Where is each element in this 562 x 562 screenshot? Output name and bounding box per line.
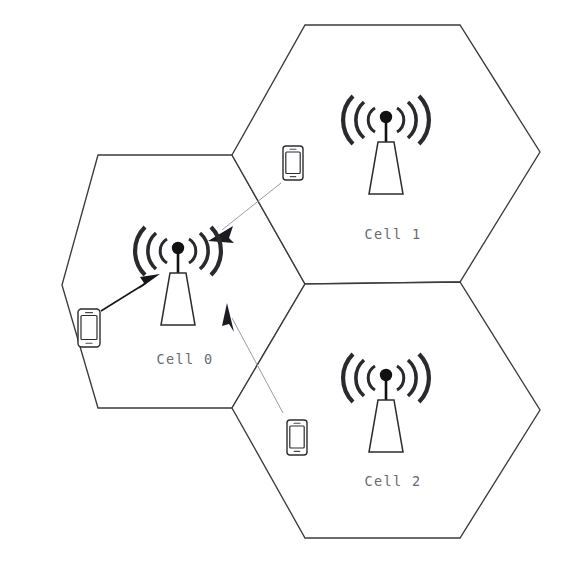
cell-network-diagram: Cell 0 Cell 1 Cell 2 (0, 0, 562, 562)
hex-cell-group (62, 25, 540, 538)
phone-cell0-user[interactable] (78, 309, 100, 347)
cell-label-0: Cell 0 (156, 351, 213, 367)
cell-label-1: Cell 1 (364, 226, 421, 242)
cell-label-2: Cell 2 (364, 473, 421, 489)
phone-cell2-user-screen (290, 426, 304, 448)
cell-tower-0-antenna-dot (172, 242, 184, 254)
cell-tower-2-antenna-dot (380, 369, 392, 381)
diagram-canvas: Cell 0 Cell 1 Cell 2 (0, 0, 562, 562)
phone-cell1-user[interactable] (283, 146, 303, 180)
phone-cell0-user-screen (81, 316, 97, 340)
cell-tower-1-antenna-dot (380, 111, 392, 123)
phone-cell1-user-screen (286, 152, 300, 174)
phone-cell2-user[interactable] (287, 420, 307, 455)
